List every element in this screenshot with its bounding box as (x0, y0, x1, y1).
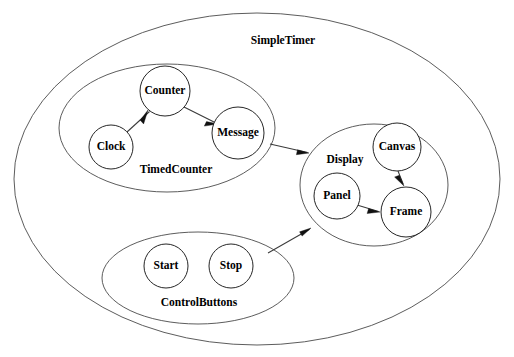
node-canvas-label: Canvas (379, 140, 416, 152)
node-panel[interactable]: Panel (314, 173, 360, 219)
node-stop-label: Stop (220, 259, 242, 272)
node-counter[interactable]: Counter (140, 66, 190, 116)
node-stop[interactable]: Stop (209, 244, 253, 288)
diagram-canvas: SimpleTimer TimedCounter Display Control… (0, 0, 514, 357)
node-message-label: Message (217, 126, 259, 139)
node-clock[interactable]: Clock (89, 125, 133, 169)
edge-panel-to-frame (357, 205, 380, 214)
graph-title: SimpleTimer (251, 34, 315, 47)
node-clock-label: Clock (97, 140, 126, 152)
edge-canvas-to-frame (395, 171, 404, 186)
node-frame-label: Frame (390, 205, 423, 217)
edge-canvas-to-frame-arrowhead (395, 175, 404, 186)
simpletimer-cluster-diagram: SimpleTimer TimedCounter Display Control… (0, 0, 514, 357)
node-counter-label: Counter (145, 84, 186, 96)
node-canvas[interactable]: Canvas (373, 123, 421, 171)
edge-timedcounter-to-display (270, 144, 309, 155)
node-panel-label: Panel (323, 189, 350, 201)
edge-controlbuttons-to-display-arrowhead (300, 228, 311, 236)
edge-clock-to-counter (127, 110, 150, 132)
node-message[interactable]: Message (212, 107, 264, 159)
edge-counter-to-message (184, 107, 218, 126)
edge-group (127, 107, 404, 253)
edge-controlbuttons-to-display (268, 228, 311, 253)
edge-clock-to-counter-arrowhead (140, 110, 148, 124)
cluster-controlbuttons-label: ControlButtons (161, 296, 238, 308)
cluster-display-label: Display (326, 153, 363, 166)
node-frame[interactable]: Frame (381, 187, 431, 237)
edge-counter-to-message-line (184, 107, 217, 123)
cluster-controlbuttons-outline (102, 232, 294, 324)
cluster-timedcounter-label: TimedCounter (140, 163, 213, 175)
cluster-simpletimer-outline (14, 13, 500, 345)
node-start[interactable]: Start (144, 244, 188, 288)
node-start-label: Start (154, 259, 179, 271)
